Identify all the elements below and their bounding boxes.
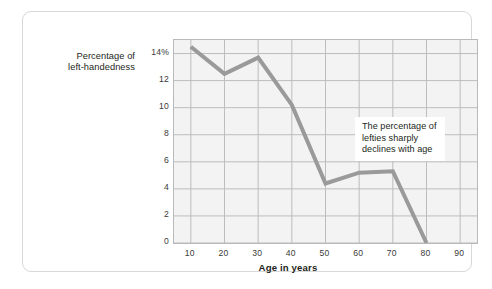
x-tick-label: 40 [276,248,306,258]
y-tick-label: 8 [133,128,169,138]
y-tick-label: 6 [133,155,169,165]
x-tick-label: 20 [209,248,239,258]
chart-annotation-line-3: declines with age [362,144,437,156]
x-axis-tick-labels: 102030405060708090 [173,248,478,262]
x-tick-label: 60 [343,248,373,258]
chart-annotation-line-2: lefties sharply [362,133,437,145]
x-tick-label: 70 [377,248,407,258]
chart-card: Percentage of left-handedness 0246810121… [22,11,472,272]
x-tick-label: 30 [242,248,272,258]
y-tick-label: 10 [133,101,169,111]
x-tick-label: 50 [310,248,340,258]
chart-annotation-line-1: The percentage of [362,121,437,133]
y-axis-title-line-2: left-handedness [43,62,135,73]
x-axis-title: Age in years [205,262,371,273]
y-axis-title: Percentage of left-handedness [43,51,135,74]
y-axis-title-line-1: Percentage of [43,51,135,62]
x-tick-label: 90 [444,248,474,258]
y-tick-label: 12 [133,74,169,84]
y-axis-tick-labels: 02468101214% [133,39,169,244]
y-tick-label: 4 [133,182,169,192]
y-tick-label: 0 [133,236,169,246]
x-tick-label: 10 [175,248,205,258]
y-tick-label: 14% [133,47,169,57]
chart-annotation: The percentage of lefties sharply declin… [355,117,445,161]
y-tick-label: 2 [133,209,169,219]
x-tick-label: 80 [411,248,441,258]
